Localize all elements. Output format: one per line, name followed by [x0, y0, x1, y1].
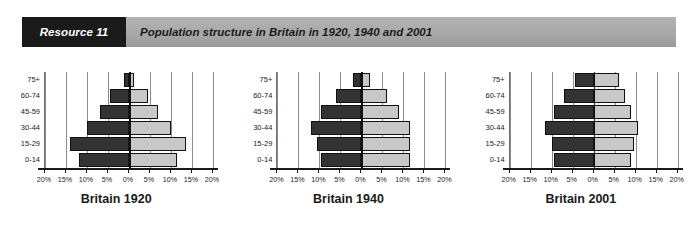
chart-plot-area: 75+60-7445-5930-4415-290-1420%15%10%5%0%…: [232, 60, 464, 190]
x-axis-tick-label: 5%: [376, 174, 386, 186]
age-group-label: 0-14: [465, 152, 509, 168]
age-group-axis: 75+60-7445-5930-4415-290-14: [0, 72, 44, 168]
x-axis-ticks: [44, 169, 212, 173]
plot: [44, 72, 213, 168]
bar-female: [361, 137, 409, 151]
bar-male: [100, 105, 129, 119]
age-group-label: 75+: [0, 72, 44, 88]
age-group-label: 30-44: [0, 120, 44, 136]
x-axis-tick: [423, 169, 424, 173]
x-axis-tick-label: 10%: [163, 174, 177, 186]
x-axis-tick-label: 10%: [311, 174, 325, 186]
bar-female: [129, 105, 158, 119]
x-axis-tick-label: 20%: [205, 174, 219, 186]
bar-male: [336, 89, 361, 103]
age-group-label: 0-14: [0, 152, 44, 168]
x-axis-tick-label: 10%: [627, 174, 641, 186]
x-axis-tick: [318, 169, 319, 173]
bar-male: [317, 137, 361, 151]
x-axis-tick: [107, 169, 108, 173]
x-axis-tick-label: 20%: [501, 174, 515, 186]
age-group-label: 30-44: [232, 120, 276, 136]
center-axis-line: [361, 72, 363, 168]
age-group-label: 0-14: [232, 152, 276, 168]
x-axis-tick: [635, 169, 636, 173]
x-axis-tick-label: 5%: [608, 174, 618, 186]
bar-female: [594, 105, 632, 119]
center-axis-line: [129, 72, 131, 168]
gridline: [678, 72, 679, 168]
x-axis-tick: [444, 169, 445, 173]
plot: [276, 72, 445, 168]
age-group-label: 60-74: [465, 88, 509, 104]
bar-female: [129, 153, 177, 167]
bar-male: [554, 153, 594, 167]
age-group-label: 30-44: [465, 120, 509, 136]
center-axis-line: [594, 72, 596, 168]
age-group-label: 45-59: [0, 104, 44, 120]
bar-male: [79, 153, 129, 167]
age-group-label: 75+: [465, 72, 509, 88]
x-axis-tick: [381, 169, 382, 173]
chart-title: Britain 1940: [232, 192, 464, 206]
bar-female: [594, 121, 638, 135]
x-axis-tick-label: 15%: [184, 174, 198, 186]
pyramid-chart-1: 75+60-7445-5930-4415-290-1420%15%10%5%0%…: [0, 60, 232, 225]
x-axis-tick-label: 20%: [669, 174, 683, 186]
pyramid-chart-3: 75+60-7445-5930-4415-290-1420%15%10%5%0%…: [465, 60, 697, 225]
x-axis-tick: [191, 169, 192, 173]
age-group-label: 15-29: [465, 136, 509, 152]
x-axis-tick-labels: 20%15%10%5%0%5%10%15%20%: [44, 174, 212, 186]
x-axis-tick: [212, 169, 213, 173]
x-axis-tick-label: 15%: [648, 174, 662, 186]
x-axis-tick-label: 15%: [290, 174, 304, 186]
age-group-label: 45-59: [465, 104, 509, 120]
x-axis-tick: [677, 169, 678, 173]
x-axis-tick: [530, 169, 531, 173]
bar-female: [594, 89, 626, 103]
x-axis-tick-label: 5%: [334, 174, 344, 186]
x-axis-tick: [297, 169, 298, 173]
x-axis-tick: [360, 169, 361, 173]
x-axis-tick: [572, 169, 573, 173]
x-axis-tick: [170, 169, 171, 173]
pyramid-charts-row: 75+60-7445-5930-4415-290-1420%15%10%5%0%…: [0, 60, 697, 225]
x-axis-tick: [128, 169, 129, 173]
bar-female: [361, 89, 386, 103]
x-axis-tick: [276, 169, 277, 173]
x-axis-tick-labels: 20%15%10%5%0%5%10%15%20%: [276, 174, 444, 186]
age-group-label: 45-59: [232, 104, 276, 120]
bar-male: [545, 121, 593, 135]
chart-plot-area: 75+60-7445-5930-4415-290-1420%15%10%5%0%…: [465, 60, 697, 190]
bar-male: [575, 73, 594, 87]
gridline: [213, 72, 214, 168]
x-axis-ticks: [276, 169, 444, 173]
x-axis-tick-label: 0%: [123, 174, 133, 186]
x-axis-tick: [44, 169, 45, 173]
bar-female: [594, 73, 619, 87]
chart-title: Britain 1920: [0, 192, 232, 206]
bar-male: [311, 121, 361, 135]
x-axis-tick-label: 15%: [58, 174, 72, 186]
resource-banner: Resource 11 Population structure in Brit…: [22, 17, 676, 47]
x-axis-tick: [65, 169, 66, 173]
x-axis-tick-label: 20%: [437, 174, 451, 186]
x-axis-tick: [656, 169, 657, 173]
bar-female: [361, 105, 399, 119]
bar-female: [361, 121, 409, 135]
bar-female: [361, 153, 409, 167]
x-axis-tick: [593, 169, 594, 173]
age-group-axis: 75+60-7445-5930-4415-290-14: [232, 72, 276, 168]
x-axis-tick-label: 15%: [522, 174, 536, 186]
resource-figure: Resource 11 Population structure in Brit…: [0, 0, 697, 233]
x-axis-tick: [149, 169, 150, 173]
age-group-axis: 75+60-7445-5930-4415-290-14: [465, 72, 509, 168]
x-axis-tick-label: 0%: [587, 174, 597, 186]
bar-male: [321, 153, 361, 167]
bar-male: [564, 89, 593, 103]
resource-title: Population structure in Britain in 1920,…: [126, 17, 676, 47]
x-axis-tick-labels: 20%15%10%5%0%5%10%15%20%: [509, 174, 677, 186]
bar-male: [554, 105, 594, 119]
x-axis-tick: [614, 169, 615, 173]
age-group-label: 60-74: [232, 88, 276, 104]
